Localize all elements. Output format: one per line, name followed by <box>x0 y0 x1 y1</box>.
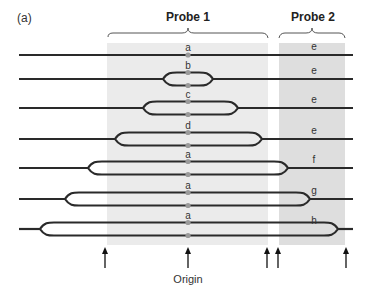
diagram-canvas: (a) Probe 1 Probe 2 aebecedeafagah Origi… <box>0 0 374 290</box>
probe1-fragment-label: a <box>185 180 191 191</box>
panel-label: (a) <box>17 11 32 25</box>
probe2-fragment-label: e <box>311 125 317 136</box>
up-arrow-icon <box>185 247 191 268</box>
origin-dot-bottom <box>185 143 190 148</box>
up-arrow-icon <box>264 247 270 268</box>
probe1-fragment-label: a <box>185 210 191 221</box>
probe2-fragment-label: h <box>311 215 317 226</box>
origin-label: Origin <box>173 273 202 285</box>
origin-dot-top <box>185 220 190 225</box>
origin-dot-top <box>185 70 190 75</box>
up-arrow-icon <box>275 247 281 268</box>
origin-dot-top <box>185 159 190 164</box>
origin-dot <box>185 52 190 57</box>
probe1-brace <box>108 28 268 38</box>
up-arrow-icon <box>102 247 108 268</box>
probe1-fragment-label: a <box>185 149 191 160</box>
probe1-fragment-label: c <box>186 89 191 100</box>
probe-braces <box>108 28 345 38</box>
origin-dot-bottom <box>185 83 190 88</box>
origin-dot-top <box>185 130 190 135</box>
probe2-fragment-label: e <box>311 94 317 105</box>
probe2-brace <box>279 28 345 38</box>
probe1-title: Probe 1 <box>166 10 210 24</box>
probe2-fragment-label: g <box>311 185 317 196</box>
probe2-fragment-label: f <box>313 154 316 165</box>
restriction-site-arrows <box>102 247 349 268</box>
origin-dot-bottom <box>185 112 190 117</box>
probe1-fragment-label: d <box>185 120 191 131</box>
origin-dot-bottom <box>185 203 190 208</box>
probe1-fragment-label: a <box>185 42 191 53</box>
probe2-fragment-label: e <box>311 41 317 52</box>
probe2-title: Probe 2 <box>291 10 335 24</box>
probe-shaded-regions <box>107 43 345 245</box>
origin-dot-top <box>185 190 190 195</box>
up-arrow-icon <box>343 247 349 268</box>
origin-dot-top <box>185 99 190 104</box>
probe2-fragment-label: e <box>311 65 317 76</box>
origin-dot-bottom <box>185 172 190 177</box>
probe1-fragment-label: b <box>185 60 191 71</box>
origin-dot-bottom <box>185 233 190 238</box>
